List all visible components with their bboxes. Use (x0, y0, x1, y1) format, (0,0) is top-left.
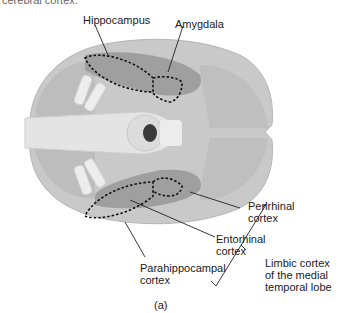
label-perirhinal-cortex: Perirhinal cortex (248, 200, 294, 224)
label-hippocampus: Hippocampus (83, 14, 150, 26)
brain-illustration (25, 39, 273, 223)
label-limbic-cortex: Limbic cortex of the medial temporal lob… (265, 257, 332, 293)
label-parahippocampal-cortex: Parahippocampal cortex (140, 262, 226, 286)
figure-panel-label: (a) (154, 299, 167, 311)
label-entorhinal-cortex: Entorhinal cortex (216, 233, 266, 257)
label-amygdala: Amygdala (175, 18, 224, 30)
